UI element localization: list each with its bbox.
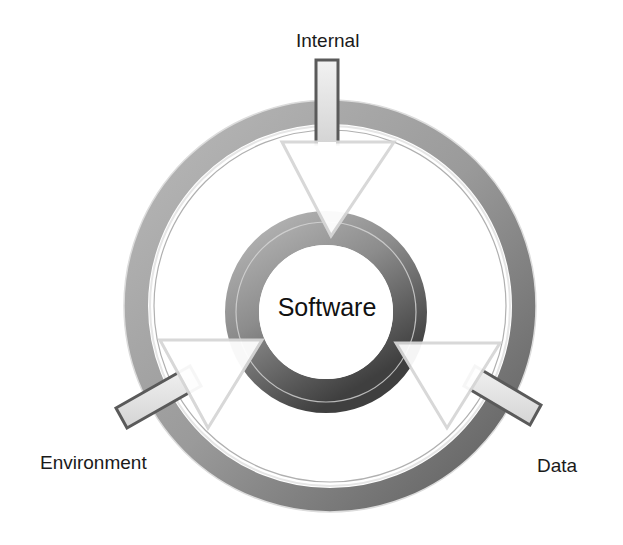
label-internal: Internal <box>296 30 359 52</box>
label-data: Data <box>537 455 577 477</box>
arrow-internal <box>282 60 394 236</box>
diagram-canvas: Internal Environment Data Software <box>0 0 623 545</box>
label-environment: Environment <box>40 452 147 474</box>
center-label-software: Software <box>278 293 377 322</box>
